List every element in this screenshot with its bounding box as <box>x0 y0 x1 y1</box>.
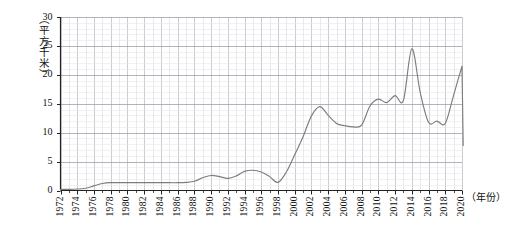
chart-figure: （平方千米） 051015202530 19721974197619781980… <box>0 0 516 235</box>
x-tick-label: 1984 <box>155 196 165 217</box>
x-tick-label: 1976 <box>88 196 98 217</box>
x-tick-label: 1974 <box>71 196 81 217</box>
x-axis-title: （年份） <box>466 189 506 204</box>
x-tick-label: 1986 <box>172 196 182 217</box>
x-tick-label: 2014 <box>406 196 416 217</box>
x-tick-label: 1982 <box>138 196 148 217</box>
x-tick-label: 2012 <box>389 196 399 217</box>
y-tick-label: 5 <box>31 155 53 166</box>
x-tick-label: 1996 <box>255 196 265 217</box>
y-tick-label: 30 <box>31 11 53 22</box>
x-tick-label: 2016 <box>423 196 433 217</box>
x-tick-label: 2018 <box>439 196 449 217</box>
x-tick-label: 2008 <box>356 196 366 217</box>
y-tick-label: 15 <box>31 97 53 108</box>
y-tick-label: 20 <box>31 68 53 79</box>
x-tick-label: 2010 <box>372 196 382 217</box>
x-tick-label: 2020 <box>456 196 466 217</box>
x-tick-label: 1978 <box>105 196 115 217</box>
x-tick-label: 1998 <box>272 196 282 217</box>
x-tick-label: 1992 <box>222 196 232 217</box>
y-tick-label: 0 <box>31 184 53 195</box>
x-tick-label: 1988 <box>188 196 198 217</box>
y-tick-label: 25 <box>31 39 53 50</box>
x-tick-label: 1990 <box>205 196 215 217</box>
x-tick-label: 1972 <box>55 196 65 217</box>
x-tick-label: 2002 <box>305 196 315 217</box>
x-tick-label: 1994 <box>239 196 249 217</box>
minor-gridlines <box>61 17 463 191</box>
x-tick-label: 2004 <box>322 196 332 217</box>
y-tick-label: 10 <box>31 126 53 137</box>
x-tick-label: 1980 <box>121 196 131 217</box>
x-tick-label: 2006 <box>339 196 349 217</box>
x-tick-label: 2000 <box>289 196 299 217</box>
axis-ticks <box>57 18 463 195</box>
